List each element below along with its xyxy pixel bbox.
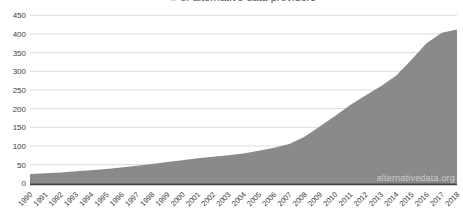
plot-area: 0501001502002503003504004501990199119921… (0, 0, 463, 217)
x-axis-tick-label: 2014 (382, 190, 400, 208)
x-axis-tick-label: 2003 (215, 190, 233, 208)
y-axis-tick-label: 0 (22, 179, 27, 188)
x-axis-tick-label: 1997 (123, 190, 141, 208)
x-axis-tick-label: 1993 (62, 190, 80, 208)
y-axis-tick-label: 100 (13, 142, 27, 151)
x-axis-tick-label: 2017 (428, 190, 446, 208)
x-axis-tick-label: 2013 (367, 190, 385, 208)
x-axis-tick-label: 1996 (108, 190, 126, 208)
x-axis-tick-label: 2015 (398, 190, 416, 208)
x-axis-tick-label: 1999 (154, 190, 172, 208)
x-axis-tick-label: 2016 (413, 190, 431, 208)
x-axis-tick-label: 2002 (199, 190, 217, 208)
x-axis-tick-label: 1992 (47, 190, 65, 208)
y-axis-tick-label: 50 (17, 161, 26, 170)
x-axis-tick-label: 2007 (276, 190, 294, 208)
x-axis-tick-label: 2008 (291, 190, 309, 208)
x-axis-tick-label: 2001 (184, 190, 202, 208)
x-axis-tick-label: 1994 (77, 190, 95, 208)
x-axis-tick-label: 2000 (169, 190, 187, 208)
watermark-text: alternativedata.org (377, 173, 455, 183)
x-axis-tick-label: 2006 (260, 190, 278, 208)
x-axis-tick-label: 2018 (443, 190, 461, 208)
x-axis-tick-label: 2004 (230, 190, 248, 208)
x-axis-tick-label: 2005 (245, 190, 263, 208)
y-axis-tick-label: 150 (13, 123, 27, 132)
x-axis-tick-label: 2010 (321, 190, 339, 208)
x-axis-tick-label: 2009 (306, 190, 324, 208)
x-axis-tick-label: 2012 (352, 190, 370, 208)
y-axis-tick-label: 250 (13, 86, 27, 95)
x-axis-tick-label: 2011 (337, 190, 355, 208)
x-axis-tick-label: 1990 (16, 190, 34, 208)
y-axis-tick-label: 350 (13, 49, 27, 58)
x-axis-tick-label: 1998 (138, 190, 156, 208)
y-axis-tick-label: 300 (13, 67, 27, 76)
x-axis-tick-label: 1995 (93, 190, 111, 208)
x-axis-tick-label: 1991 (32, 190, 50, 208)
y-axis-tick-label: 450 (13, 11, 27, 20)
y-axis-tick-label: 400 (13, 30, 27, 39)
area-chart: # of alternative data providers 05010015… (0, 0, 463, 217)
y-axis-tick-label: 200 (13, 105, 27, 114)
